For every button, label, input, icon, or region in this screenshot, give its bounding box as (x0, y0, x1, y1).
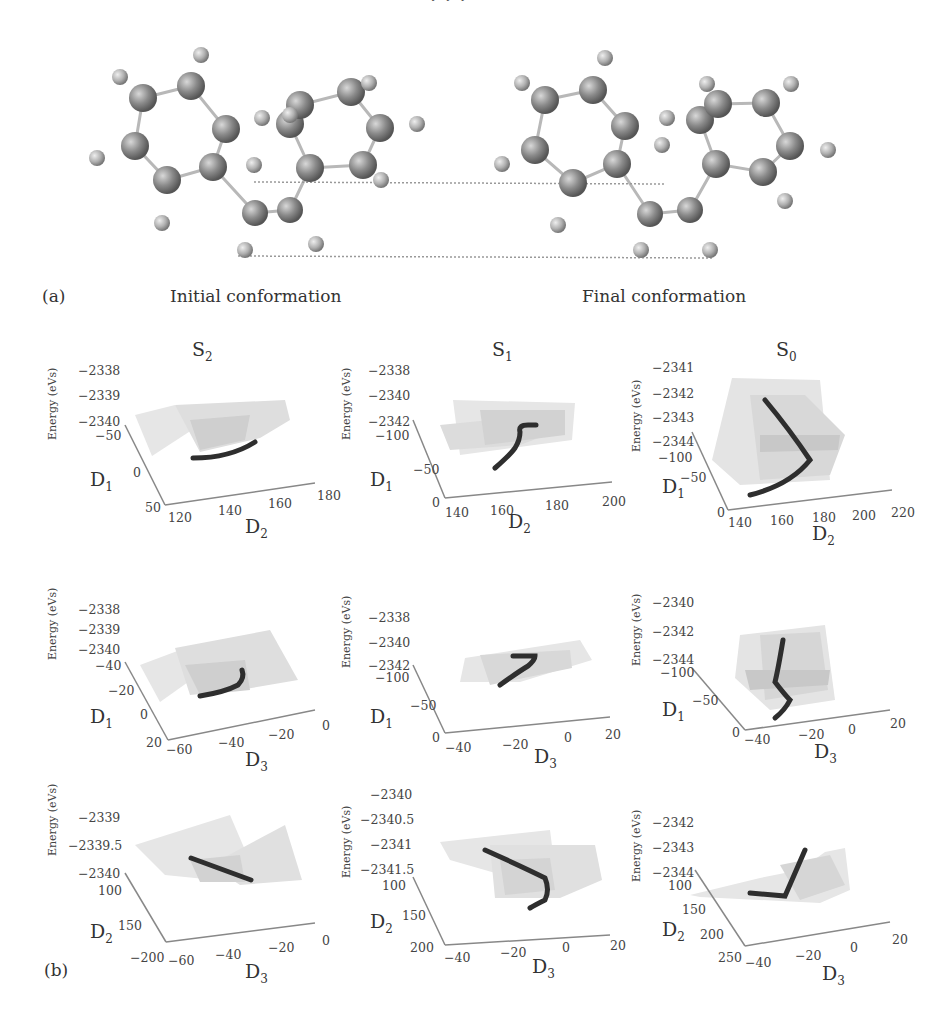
y-tick: 0 (432, 495, 440, 510)
y-tick: −100 (375, 428, 409, 443)
z-tick: −2338 (368, 610, 410, 625)
energy-axis-label: Energy (eVs) (630, 380, 643, 452)
z-tick: −2338 (368, 363, 410, 378)
x-tick: 20 (892, 932, 908, 947)
energy-axis-label: Energy (eVs) (340, 368, 353, 440)
x-axis-label: D3 (814, 740, 837, 766)
z-tick: −2344 (652, 434, 694, 449)
energy-axis-label: Energy (eVs) (340, 806, 353, 878)
z-tick: −2339.5 (68, 838, 122, 853)
x-tick: 160 (770, 513, 794, 528)
x-tick: 0 (562, 940, 570, 955)
x-tick: −40 (744, 732, 770, 747)
x-tick: 0 (322, 933, 330, 948)
z-tick: −2340.5 (360, 812, 414, 827)
x-tick: 200 (852, 508, 876, 523)
x-tick: 140 (728, 515, 752, 530)
y-axis-label: D1 (662, 698, 685, 724)
y-tick: 50 (145, 500, 161, 515)
y-axis-label: D2 (370, 910, 393, 936)
molecule-structures-image (0, 30, 951, 280)
x-axis-label: D2 (508, 510, 531, 536)
y-tick: 100 (382, 878, 406, 893)
z-tick: −2341.5 (360, 862, 414, 877)
y-axis-label: D1 (370, 705, 393, 731)
x-tick: 200 (602, 494, 626, 509)
y-tick: 0 (732, 725, 740, 740)
energy-axis-label: Energy (eVs) (46, 588, 59, 660)
z-tick: −2339 (78, 622, 120, 637)
cutoff-caption-text: · · · (430, 0, 467, 12)
y-tick: 200 (700, 927, 724, 942)
plot-s0-d2-d3: Energy (eVs) −2342 −2343 −2344 100 150 2… (640, 790, 950, 1005)
z-tick: −2338 (78, 363, 120, 378)
energy-axis-label: Energy (eVs) (46, 784, 59, 856)
x-tick: 180 (545, 498, 569, 513)
x-tick: 20 (610, 938, 626, 953)
y-tick: 250 (718, 950, 742, 965)
y-tick: 20 (146, 735, 162, 750)
x-axis-label: D3 (245, 748, 268, 774)
final-conformation-label: Final conformation (582, 286, 746, 306)
z-tick: −2342 (652, 815, 694, 830)
x-axis-label: D3 (532, 955, 555, 981)
z-tick: −2343 (652, 410, 694, 425)
x-tick: −40 (215, 947, 241, 962)
column-title-s1: S1 (492, 338, 513, 364)
x-tick: −20 (268, 727, 294, 742)
z-tick: −2341 (652, 360, 694, 375)
x-tick: 20 (890, 716, 906, 731)
y-tick: 100 (668, 878, 692, 893)
plot-s1-d1-d3: Energy (eVs) −2338 −2340 −2342 −100 −50 … (340, 590, 650, 805)
y-tick: 0 (133, 465, 141, 480)
x-tick: 160 (268, 496, 292, 511)
x-tick: −20 (500, 945, 526, 960)
z-tick: −2338 (78, 602, 120, 617)
z-tick: −2340 (78, 866, 120, 881)
y-axis-label: D1 (90, 705, 113, 731)
z-tick: −2342 (652, 624, 694, 639)
panel-a-label: (a) (42, 286, 65, 306)
z-tick: −2339 (78, 810, 120, 825)
x-tick: 0 (564, 730, 572, 745)
z-tick: −2340 (652, 595, 694, 610)
energy-axis-label: Energy (eVs) (630, 594, 643, 666)
x-axis-label: D3 (245, 960, 268, 986)
y-tick: −50 (692, 693, 718, 708)
z-tick: −2340 (368, 388, 410, 403)
y-tick: −50 (410, 698, 436, 713)
plot-s0-d1-d3: Energy (eVs) −2340 −2342 −2344 −100 −50 … (640, 590, 950, 805)
plot-s2-d2-d3: Energy (eVs) −2339 −2339.5 −2340 100 150… (40, 790, 350, 1005)
y-tick: −50 (95, 428, 121, 443)
x-tick: 0 (322, 718, 330, 733)
x-tick: −20 (502, 737, 528, 752)
x-axis-label: D2 (812, 522, 835, 548)
y-tick: −100 (658, 450, 692, 465)
x-tick: −40 (445, 740, 471, 755)
x-tick: −60 (166, 742, 192, 757)
y-tick: 100 (98, 883, 122, 898)
column-title-s2: S2 (192, 338, 213, 364)
plot-s1-d2-d3: Energy (eVs) −2340 −2340.5 −2341 −2341.5… (340, 790, 650, 1005)
x-tick: 140 (218, 503, 242, 518)
z-tick: −2339 (78, 388, 120, 403)
y-tick: −100 (375, 670, 409, 685)
plot-s1-d1-d2: Energy (eVs) −2338 −2340 −2342 −100 −50 … (340, 370, 650, 585)
y-tick: −50 (413, 462, 439, 477)
y-tick: −20 (108, 683, 134, 698)
panel-b-label: (b) (44, 960, 68, 980)
z-tick: −2342 (652, 386, 694, 401)
x-tick: −40 (444, 950, 470, 965)
z-tick: −2340 (78, 414, 120, 429)
x-tick: −40 (745, 955, 771, 970)
x-tick: −60 (168, 953, 194, 968)
y-tick: 0 (432, 730, 440, 745)
x-tick: 0 (850, 940, 858, 955)
y-axis-label: D1 (662, 475, 685, 501)
x-tick: 140 (445, 505, 469, 520)
x-tick: 0 (848, 722, 856, 737)
z-tick: −2340 (78, 642, 120, 657)
energy-axis-label: Energy (eVs) (46, 368, 59, 440)
z-tick: −2340 (368, 635, 410, 650)
y-axis-label: D1 (370, 468, 393, 494)
